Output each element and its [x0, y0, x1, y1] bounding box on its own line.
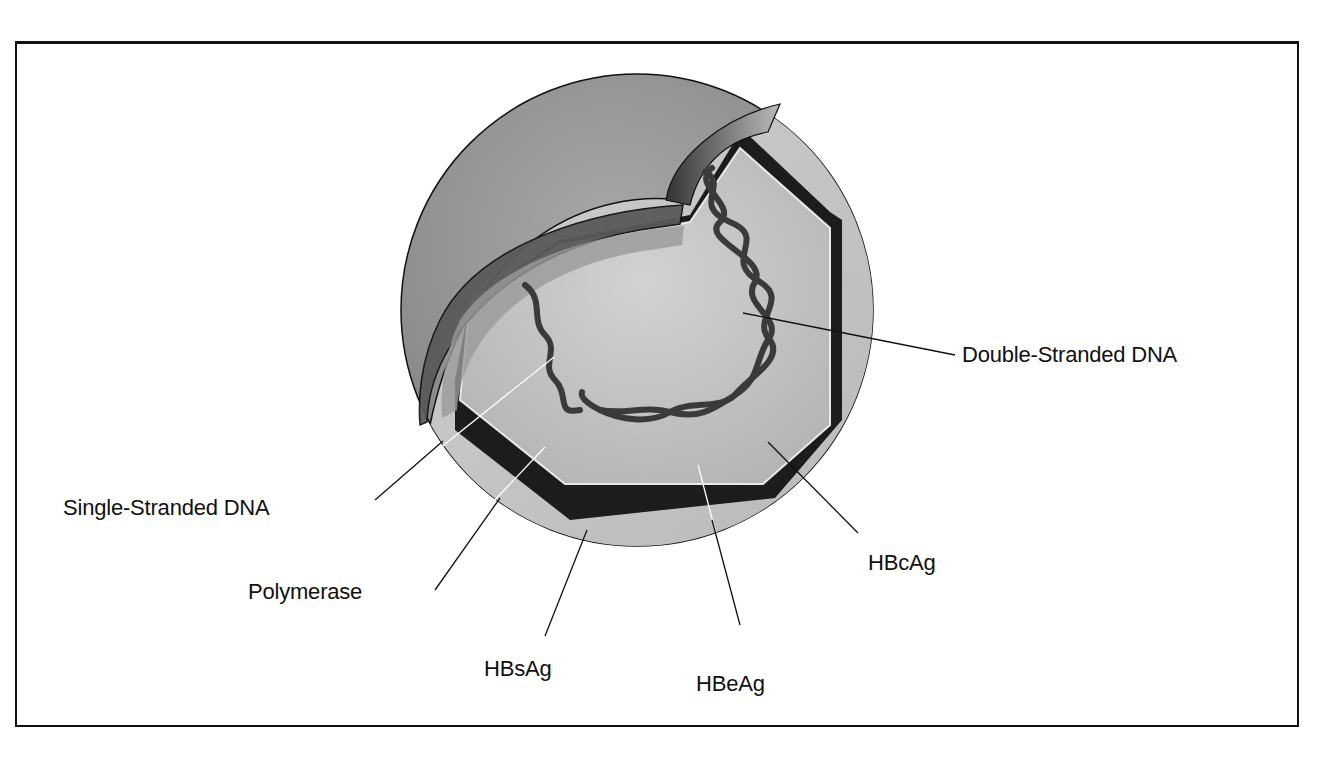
leader-hbeag-outer [712, 520, 740, 625]
label-hbsag: HBsAg [484, 658, 551, 680]
label-double-stranded-dna: Double-Stranded DNA [962, 344, 1177, 366]
virus-diagram [0, 0, 1327, 759]
leader-polymerase-outer [435, 498, 500, 590]
label-hbeag: HBeAg [696, 673, 765, 695]
label-polymerase: Polymerase [248, 581, 362, 603]
leader-hbsag [545, 530, 587, 636]
label-single-stranded-dna: Single-Stranded DNA [63, 497, 270, 519]
leader-single-stranded-dna-outer [375, 441, 443, 500]
label-hbcag: HBcAg [868, 552, 935, 574]
